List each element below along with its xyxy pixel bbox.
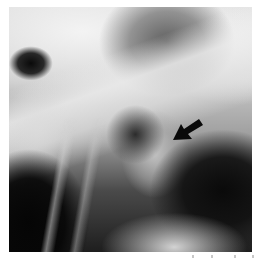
- arrow-icon: [173, 118, 203, 142]
- scale-mark: [192, 255, 194, 258]
- scale-mark: [234, 255, 236, 258]
- scale-marks: [190, 253, 260, 261]
- bottom-bright-region: [9, 7, 252, 252]
- scale-mark: [211, 255, 213, 258]
- scale-mark: [252, 255, 254, 258]
- radiograph-image: [9, 7, 252, 252]
